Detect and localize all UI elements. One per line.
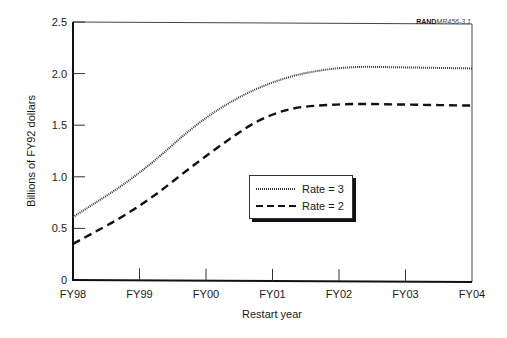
dashed-line-icon xyxy=(256,203,296,209)
x-tick-label: FY99 xyxy=(126,288,152,300)
x-axis-title: Restart year xyxy=(242,308,302,320)
y-axis-title: Billions of FY92 dollars xyxy=(25,95,37,207)
x-tick-label: FY02 xyxy=(326,288,352,300)
y-axis-ticks: 00.51.01.52.02.5 xyxy=(52,16,85,286)
y-tick-label: 1.5 xyxy=(52,119,67,131)
x-tick-label: FY98 xyxy=(60,288,86,300)
legend-item-rate-3: Rate = 3 xyxy=(256,182,344,196)
source-tag-id: MR456-3.1 xyxy=(436,18,471,25)
x-tick-label: FY00 xyxy=(193,288,219,300)
x-tick-label: FY04 xyxy=(459,288,485,300)
y-tick-label: 0 xyxy=(61,274,67,286)
y-tick-label: 1.0 xyxy=(52,171,67,183)
legend-label: Rate = 3 xyxy=(302,183,344,195)
series-rate-2-line xyxy=(73,104,472,244)
source-tag: RANDMR456-3.1 xyxy=(416,18,471,25)
y-tick-label: 0.5 xyxy=(52,222,67,234)
legend-item-rate-2: Rate = 2 xyxy=(256,199,344,213)
x-tick-label: FY01 xyxy=(259,288,285,300)
x-tick-label: FY03 xyxy=(392,288,418,300)
x-axis-ticks: FY98FY99FY00FY01FY02FY03FY04 xyxy=(60,268,485,300)
y-tick-label: 2.0 xyxy=(52,68,67,80)
legend: Rate = 3 Rate = 2 xyxy=(249,175,353,219)
y-tick-label: 2.5 xyxy=(52,16,67,28)
dotted-line-icon xyxy=(256,186,296,192)
line-chart: 00.51.01.52.02.5 FY98FY99FY00FY01FY02FY0… xyxy=(0,0,507,338)
legend-label: Rate = 2 xyxy=(302,200,344,212)
source-tag-bold: RAND xyxy=(416,18,436,25)
plot-frame xyxy=(72,22,472,282)
